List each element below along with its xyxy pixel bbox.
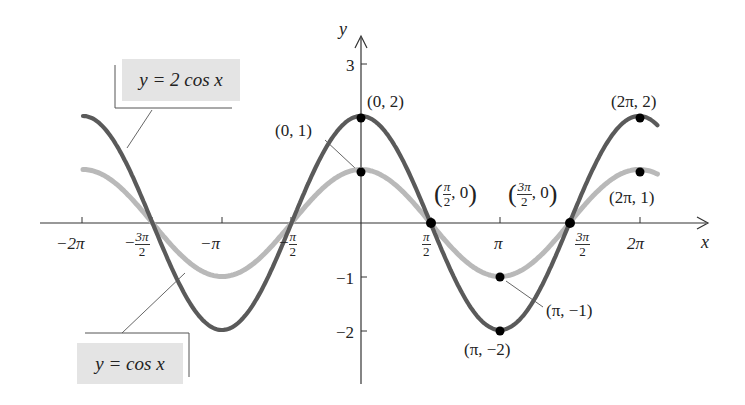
x-tick-pi: π (494, 235, 503, 252)
point-3pi2-0 (565, 218, 575, 228)
y-tick-3: 3 (346, 57, 355, 74)
legend-text-2cos: y = 2 cos x (139, 69, 223, 91)
x-tick-negpi2: −π2 (279, 230, 297, 258)
point-0-2 (357, 114, 366, 123)
point-0-1 (357, 168, 366, 177)
x-tick-neg2pi: −2π (56, 235, 85, 252)
label-point-3pi2-0: (3π2, 0) (508, 180, 557, 208)
leader-line-2cos (127, 110, 152, 148)
label-point-pi-m1: (π, −1) (546, 302, 593, 319)
x-tick-2pi: 2π (627, 235, 644, 252)
legend-text-cos: y = cos x (95, 353, 164, 375)
y-tick-neg1: −1 (336, 270, 354, 287)
label-point-0-2: (0, 2) (367, 93, 404, 110)
point-pi2-0 (426, 218, 436, 228)
x-tick-pi2: π2 (422, 230, 431, 258)
legend-label-cos: y = cos x (77, 343, 183, 384)
label-point-2pi-2: (2π, 2) (611, 93, 656, 110)
point-pi-m1 (496, 273, 505, 282)
x-tick-neg3pi2: −3π2 (125, 230, 150, 258)
x-tick-3pi2: 3π2 (575, 230, 590, 258)
point-2pi-2 (636, 114, 645, 123)
x-tick-negpi: −π (200, 235, 220, 252)
label-point-pi2-0: (π2, 0) (434, 180, 477, 208)
legend-label-2cos: y = 2 cos x (122, 59, 240, 101)
label-point-2pi-1: (2π, 1) (609, 189, 654, 206)
leader-line-cos (122, 273, 185, 333)
highlighted-points (357, 114, 645, 336)
label-point-pi-m2: (π, −2) (464, 341, 511, 358)
y-axis-label: y (339, 20, 347, 38)
label-point-0-1: (0, 1) (275, 122, 312, 139)
point-pi-m2 (496, 327, 505, 336)
point-2pi-1 (636, 168, 645, 177)
x-axis-label: x (701, 233, 709, 251)
y-tick-neg2: −2 (336, 324, 354, 341)
